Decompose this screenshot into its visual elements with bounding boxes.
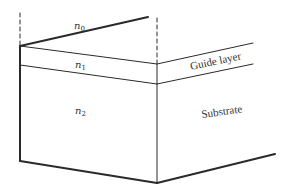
guide-index-label: n1 bbox=[75, 59, 86, 72]
bottom-right-edge bbox=[157, 154, 275, 183]
guide-layer-label: Guide layer bbox=[189, 49, 242, 72]
guide-top-left-face bbox=[20, 46, 157, 64]
bottom-left-edge bbox=[20, 161, 157, 183]
substrate-index-label: n2 bbox=[75, 105, 86, 118]
substrate-label: Substrate bbox=[201, 102, 243, 120]
cover-index-label: n0 bbox=[74, 20, 85, 33]
guide-bottom-left-face bbox=[20, 65, 157, 84]
waveguide-diagram: n0 n1 n2 Guide layer Substrate bbox=[0, 0, 285, 191]
